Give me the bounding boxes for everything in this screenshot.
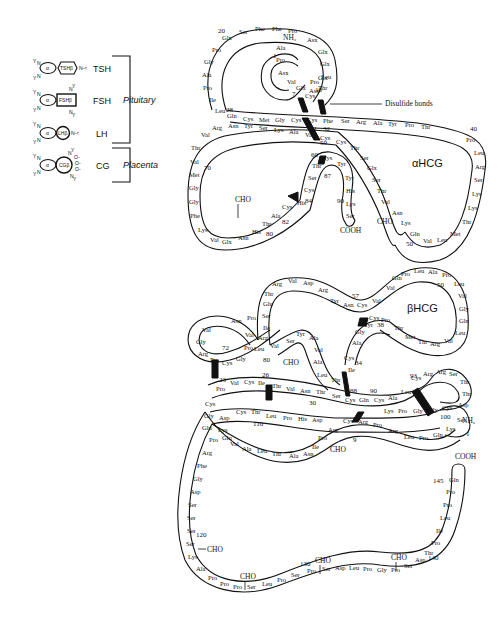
svg-text:α: α [46,97,49,103]
svg-text:7: 7 [292,90,296,98]
cho-label: CHO [330,445,346,454]
svg-text:Cys: Cys [369,314,380,321]
legend-row-fsh: YN YN α FSHβ NY NY FSH [33,83,111,118]
svg-text:Ser: Ser [404,562,414,569]
svg-text:Leu: Leu [317,371,328,378]
svg-text:Ala: Ala [313,358,323,365]
svg-text:Pro: Pro [318,434,328,441]
svg-text:Arg: Arg [202,449,213,456]
cho-label: CHO [391,553,407,562]
svg-text:Ala: Ala [289,128,299,135]
svg-text:Val: Val [381,198,390,205]
svg-text:Lys: Lys [446,425,456,432]
svg-text:38: 38 [377,321,385,329]
svg-text:Ser: Ser [308,174,318,181]
svg-text:Val: Val [287,78,296,85]
svg-text:Tyr: Tyr [388,120,398,127]
svg-text:FSHβ: FSHβ [59,97,72,103]
svg-text:Pro: Pro [283,414,293,421]
svg-text:Pro: Pro [203,84,213,91]
svg-text:Ala: Ala [276,44,286,51]
legend-row-cg: YN YN α CGβ NY O- O- O- NY CG [33,147,110,182]
svg-text:Gln: Gln [359,396,370,403]
svg-text:Glu: Glu [263,300,274,307]
svg-text:Lys: Lys [218,426,228,433]
svg-text:Pro: Pro [216,385,226,392]
svg-text:Val: Val [202,326,211,333]
svg-text:Glx: Glx [296,84,307,91]
svg-text:Lys: Lys [346,200,356,207]
label-cg: CG [96,161,110,171]
svg-text:Glx: Glx [367,164,378,171]
svg-text:30: 30 [309,399,317,407]
svg-text:Pro: Pro [446,488,456,495]
svg-text:Thr: Thr [418,338,428,345]
svg-text:N: N [37,105,41,111]
svg-text:Leu: Leu [262,580,273,587]
svg-text:Leu: Leu [437,236,448,243]
svg-text:Ala: Ala [373,119,383,126]
svg-text:Tyr: Tyr [244,122,254,129]
svg-text:N: N [37,169,41,175]
svg-text:Arg: Arg [356,118,367,125]
svg-text:10: 10 [315,86,323,94]
svg-text:Ser: Ser [332,392,342,399]
svg-text:Glx: Glx [320,60,331,67]
hormone-legend: YN YN α TSHβ N-< TSH YN YN α FSHβ NY NY … [33,56,158,182]
cho-label: CHO [207,545,223,554]
svg-text:Cys: Cys [343,417,354,424]
svg-text:88: 88 [350,387,358,395]
svg-text:Arg: Arg [388,427,399,434]
svg-text:Ser: Ser [247,583,257,590]
svg-text:Gly: Gly [413,407,424,414]
svg-text:Thr: Thr [191,144,201,151]
svg-text:Ser: Ser [187,514,197,521]
svg-text:Phe: Phe [197,462,207,469]
svg-text:Arg: Arg [198,350,209,357]
svg-text:N: N [37,123,41,129]
svg-text:40: 40 [470,125,478,133]
cho-label: CHO [235,195,251,204]
svg-text:Tyr: Tyr [296,330,306,337]
svg-text:Val: Val [245,331,254,338]
svg-text:Thr: Thr [312,162,322,169]
svg-text:Ala: Ala [428,268,438,275]
svg-text:Arg: Arg [436,368,447,375]
svg-text:Leu: Leu [257,447,268,454]
svg-text:Thr: Thr [316,388,326,395]
svg-text:Asn: Asn [303,450,314,457]
svg-text:Pro: Pro [212,46,222,53]
svg-text:Gly: Gly [355,328,366,335]
svg-text:Thr: Thr [460,378,470,385]
svg-text:26: 26 [262,371,270,379]
svg-text:Cys: Cys [205,400,216,407]
svg-text:Val: Val [386,284,395,291]
svg-text:Arg: Arg [328,426,339,433]
svg-text:Cys: Cys [344,354,355,361]
svg-text:Pro: Pro [277,576,287,583]
svg-text:Val: Val [210,236,219,243]
svg-text:Leu: Leu [455,329,466,336]
svg-text:145: 145 [433,477,444,485]
svg-text:50: 50 [437,281,445,289]
legend-row-lh: YN YN α LHβ N-< LH [33,121,108,145]
svg-text:Pro: Pro [442,271,452,278]
svg-text:Leu: Leu [414,267,425,274]
svg-text:87: 87 [324,172,332,180]
svg-text:Val: Val [288,277,297,284]
svg-text:Lys: Lys [198,226,208,233]
svg-text:Thr: Thr [350,144,360,151]
n-terminus-label: NH₂ [283,33,297,42]
svg-text:Arg: Arg [258,334,269,341]
svg-text:Y: Y [71,147,75,153]
svg-text:Arg: Arg [212,124,223,131]
svg-text:Gly: Gly [193,475,204,482]
svg-text:Cys: Cys [243,115,254,122]
svg-text:Cys: Cys [304,186,315,193]
svg-text:Tyr: Tyr [330,297,340,304]
svg-text:Pro: Pro [419,434,429,441]
svg-text:Val: Val [190,158,199,165]
svg-text:90: 90 [337,197,345,205]
svg-text:Leu: Leu [404,433,415,440]
label-tsh: TSH [93,64,111,74]
